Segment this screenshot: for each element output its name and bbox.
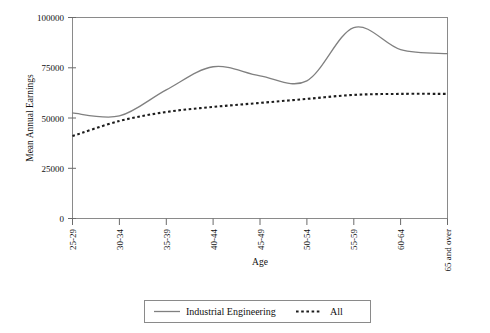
chart-legend: Industrial Engineering All xyxy=(145,301,371,323)
y-tick-label-100000: 100000 xyxy=(37,13,65,23)
legend-label-all: All xyxy=(330,306,343,317)
chart-container: 100000 75000 50000 25000 0 Mean Annual E… xyxy=(0,0,490,333)
x-tick-label-25-29: 25-29 xyxy=(68,229,78,250)
series-line-all xyxy=(73,94,448,136)
line-chart-figure: 100000 75000 50000 25000 0 Mean Annual E… xyxy=(0,0,490,333)
x-tick-label-30-34: 30-34 xyxy=(115,229,125,250)
series-line-industrial-engineering xyxy=(73,27,448,117)
y-tick-label-0: 0 xyxy=(60,214,65,224)
x-tick-label-35-39: 35-39 xyxy=(162,229,172,250)
y-axis-title: Mean Annual Earnings xyxy=(25,74,35,162)
y-tick-label-25000: 25000 xyxy=(42,164,65,174)
y-tick-label-75000: 75000 xyxy=(42,63,65,73)
x-tick-label-40-44: 40-44 xyxy=(209,229,219,250)
x-tick-label-45-49: 45-49 xyxy=(256,229,266,250)
x-tick-label-65-and-over: 65 and over xyxy=(443,229,453,272)
x-axis-title: Age xyxy=(252,257,268,267)
y-axis-tick-labels: 100000 75000 50000 25000 0 xyxy=(37,13,65,224)
x-tick-label-55-59: 55-59 xyxy=(349,229,359,250)
x-tick-label-60-64: 60-64 xyxy=(396,229,406,250)
legend-label-industrial-engineering: Industrial Engineering xyxy=(186,306,276,317)
x-axis-ticks xyxy=(73,219,448,226)
y-tick-label-50000: 50000 xyxy=(42,114,65,124)
x-tick-label-50-54: 50-54 xyxy=(302,229,312,250)
